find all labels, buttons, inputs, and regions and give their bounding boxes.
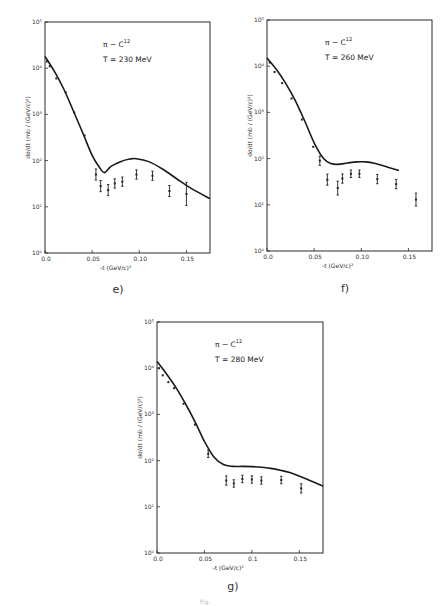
data-point: [168, 190, 170, 192]
data-point: [100, 185, 102, 187]
y-tick-label: 10⁵: [254, 16, 265, 23]
data-point: [350, 173, 352, 175]
y-axis-label: dσ/dt (mb / (GeV/c)²): [246, 94, 253, 157]
data-point: [151, 175, 153, 177]
annotation-energy: T = 280 MeV: [214, 355, 264, 364]
data-point: [341, 178, 343, 180]
theory-curve: [157, 361, 323, 486]
panel-label: g): [227, 580, 238, 593]
data-point: [376, 178, 378, 180]
y-axis-label: dσ/dt (mb / (GeV/c)²): [136, 396, 143, 459]
data-point: [233, 482, 235, 484]
data-point: [319, 160, 321, 162]
x-tick-label: 0.05: [86, 255, 100, 262]
data-point: [291, 97, 293, 99]
annotation-reaction-text: π − C: [325, 38, 346, 47]
x-tick-label: 0.05: [308, 253, 322, 260]
x-axis-label: -t (GeV/c)²: [100, 264, 132, 271]
theory-curve: [45, 56, 210, 198]
annotation-energy: T = 230 MeV: [102, 55, 152, 64]
annotation-reaction: π − C12: [215, 338, 242, 349]
data-point: [251, 478, 253, 480]
x-tick-label: 0.15: [294, 555, 308, 562]
x-tick-label: 0.0: [263, 253, 273, 260]
y-axis-label: dσ/dt (mb / (GeV/c)²): [24, 96, 31, 159]
data-point: [301, 119, 303, 121]
x-tick-label: 0.1: [248, 555, 258, 562]
data-point: [358, 173, 360, 175]
y-tick-label: 10¹: [32, 203, 43, 210]
data-point: [173, 387, 175, 389]
panel-g: 10⁰10¹10²10³10⁴10⁵0.00.050.10.15-t (GeV/…: [136, 318, 323, 593]
panel-label: e): [112, 283, 123, 296]
data-point: [107, 189, 109, 191]
y-tick-label: 10²: [254, 155, 265, 162]
annotation-superscript: 12: [346, 36, 352, 42]
x-tick-label: 0.05: [199, 555, 213, 562]
x-tick-label: 0.10: [134, 255, 148, 262]
y-tick-label: 10³: [144, 410, 155, 417]
y-tick-label: 10³: [32, 110, 43, 117]
data-point: [167, 381, 169, 383]
panel-f: 10⁰10¹10²10³10⁴10⁵0.00.050.100.15-t (GeV…: [246, 16, 432, 295]
data-point: [135, 174, 137, 176]
data-point: [84, 134, 86, 136]
data-point: [121, 181, 123, 183]
data-point: [260, 480, 262, 482]
data-point: [158, 367, 160, 369]
data-point: [185, 193, 187, 195]
x-axis-label: -t (GeV/c)²: [213, 564, 245, 571]
data-point: [114, 182, 116, 184]
y-tick-label: 10¹: [254, 201, 265, 208]
data-point: [415, 199, 417, 201]
data-point: [312, 146, 314, 148]
data-point: [225, 480, 227, 482]
y-tick-label: 10⁵: [32, 18, 43, 25]
panel-label: f): [341, 282, 349, 295]
y-tick-label: 10⁴: [32, 64, 43, 71]
data-point: [207, 453, 209, 455]
data-point: [46, 60, 48, 62]
annotation-reaction: π − C12: [325, 36, 352, 47]
annotation-reaction-text: π − C: [103, 40, 124, 49]
y-tick-label: 10²: [32, 157, 43, 164]
data-point: [274, 71, 276, 73]
x-tick-label: 0.0: [41, 255, 51, 262]
y-tick-label: 10⁵: [144, 318, 155, 325]
annotation-reaction: π − C12: [103, 38, 130, 49]
x-tick-label: 0.0: [153, 555, 163, 562]
data-point: [281, 82, 283, 84]
figure: 10⁰10¹10²10³10⁴10⁵0.00.050.100.15-t (GeV…: [0, 0, 445, 606]
data-point: [162, 374, 164, 376]
data-point: [73, 111, 75, 113]
panel-e: 10⁰10¹10²10³10⁴10⁵0.00.050.100.15-t (GeV…: [24, 18, 210, 296]
annotation-energy: T = 260 MeV: [324, 53, 374, 62]
data-point: [49, 65, 51, 67]
y-tick-label: 10⁴: [144, 364, 155, 371]
x-tick-label: 0.15: [403, 253, 417, 260]
data-point: [280, 479, 282, 481]
y-tick-label: 10¹: [144, 503, 155, 510]
x-axis-label: -t (GeV/c)²: [322, 262, 354, 269]
data-point: [326, 179, 328, 181]
y-tick-label: 10²: [144, 457, 155, 464]
data-point: [194, 424, 196, 426]
annotation-superscript: 12: [124, 38, 130, 44]
data-point: [183, 403, 185, 405]
data-point: [300, 487, 302, 489]
data-point: [269, 62, 271, 64]
theory-curve: [267, 58, 399, 171]
x-tick-label: 0.15: [181, 255, 195, 262]
data-point: [55, 77, 57, 79]
figure-caption: Fig.: [200, 598, 210, 606]
y-tick-label: 10⁴: [254, 62, 265, 69]
data-point: [95, 174, 97, 176]
data-point: [241, 478, 243, 480]
data-point: [65, 91, 67, 93]
data-point: [337, 187, 339, 189]
annotation-reaction-text: π − C: [215, 340, 236, 349]
annotation-superscript: 12: [236, 338, 242, 344]
data-point: [395, 183, 397, 185]
x-tick-label: 0.10: [356, 253, 370, 260]
y-tick-label: 10³: [254, 108, 265, 115]
